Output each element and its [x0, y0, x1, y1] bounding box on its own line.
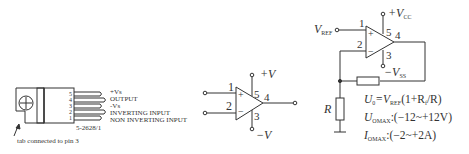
ground-resistor-icon: [336, 98, 344, 120]
opamp-pin-5: 5: [254, 88, 260, 100]
feedback-resistor-icon: [357, 77, 379, 85]
circuit-plus-sign: +: [368, 28, 374, 39]
opamp-pin-1: 1: [228, 80, 234, 94]
circuit-pin-2: 2: [357, 38, 363, 50]
opamp-pin-3: 3: [254, 110, 260, 122]
opamp-minus-sign: −: [238, 106, 244, 117]
opamp-pin-2: 2: [226, 99, 232, 113]
package-tab-divider: [37, 88, 44, 123]
equation-gain: U0=VREF(1+Rf/R): [364, 93, 442, 106]
resistor-label: R: [323, 102, 332, 116]
part-code: 5-2628/1: [76, 124, 102, 132]
vcc-neg-label: −VSS: [384, 65, 406, 79]
circuit-pin-5: 5: [386, 26, 392, 38]
opamp-plus-sign: +: [238, 89, 244, 100]
tab-note: tab connected to pin 3: [17, 137, 79, 145]
package-pin-1: 1: [69, 115, 72, 121]
circuit-pin-4: 4: [395, 29, 401, 41]
opamp-pin-4: 4: [264, 91, 270, 103]
opamp-vplus: +V: [260, 67, 277, 81]
circuit-pin-3: 3: [386, 49, 392, 61]
pin-label-non-inverting: NON INVERTING INPUT: [110, 116, 188, 124]
package-tab: [16, 88, 44, 123]
circuit-pin-1: 1: [359, 17, 365, 29]
circuit-minus-sign: −: [368, 46, 374, 57]
vcc-pos-label: +VCC: [388, 6, 411, 20]
package-leads: [74, 92, 106, 120]
opamp-vminus: −V: [256, 128, 273, 142]
opamp-symbol: [203, 73, 297, 131]
equation-umax: UOMAX:(−12~+12V): [364, 111, 452, 124]
diagram-canvas: 5 4 3 2 1 +Vs OUTPUT -Vs INVERTING INPUT…: [0, 0, 469, 154]
vref-label: VREF: [314, 22, 333, 36]
equation-imax: IOMAX:(−2~+2A): [363, 129, 436, 142]
